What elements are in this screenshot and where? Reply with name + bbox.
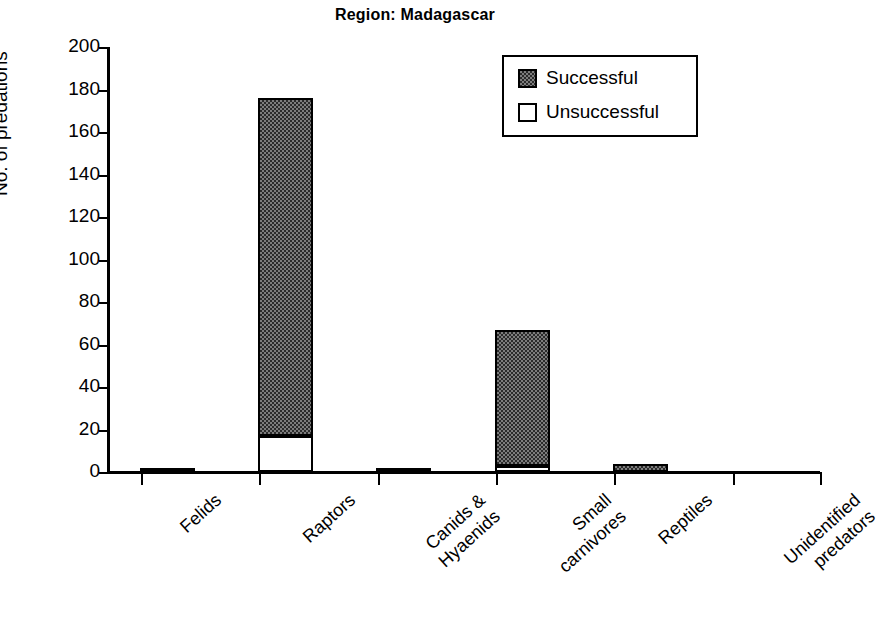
bar-segment-successful[interactable] — [376, 468, 431, 472]
y-tick-label: 140 — [40, 164, 100, 184]
bar-felids[interactable] — [140, 468, 195, 472]
y-tick-label: 160 — [40, 121, 100, 141]
x-tick-mark — [141, 472, 143, 485]
y-tick-mark — [99, 345, 108, 347]
y-tick-label: 0 — [40, 461, 100, 481]
chart-legend: Successful Unsuccessful — [502, 55, 698, 137]
legend-label-unsuccessful: Unsuccessful — [546, 102, 659, 122]
x-tick-label: Raptors — [298, 489, 360, 548]
bar-segment-successful[interactable] — [140, 468, 195, 472]
legend-swatch-successful-icon — [518, 69, 537, 88]
plot-area: 020406080100120140160180200 — [108, 47, 818, 472]
y-tick-mark — [99, 302, 108, 304]
x-tick-label: Reptiles — [653, 489, 716, 549]
x-tick-label-line: Raptors — [298, 489, 360, 548]
bar-raptors[interactable] — [258, 98, 313, 472]
x-tick-mark — [733, 472, 735, 485]
legend-swatch-unsuccessful-icon — [518, 103, 537, 122]
x-tick-mark — [259, 472, 261, 485]
bar-segment-successful[interactable] — [613, 464, 668, 473]
x-tick-label: Canids &Hyaenids — [419, 489, 504, 572]
y-tick-label: 40 — [40, 376, 100, 396]
chart-title: Region: Madagascar — [0, 6, 830, 24]
y-tick-label: 180 — [40, 79, 100, 99]
bar-segment-unsuccessful[interactable] — [258, 436, 313, 472]
legend-item-unsuccessful[interactable]: Unsuccessful — [518, 100, 659, 124]
x-tick-mark — [614, 472, 616, 485]
bar-reptiles[interactable] — [613, 464, 668, 473]
y-axis-title: No. of predations — [0, 0, 12, 196]
x-tick-mark — [820, 472, 822, 485]
x-tick-label-line: Reptiles — [653, 489, 716, 549]
y-tick-mark — [99, 132, 108, 134]
y-tick-mark — [99, 217, 108, 219]
y-tick-label: 200 — [40, 36, 100, 56]
y-tick-mark — [99, 430, 108, 432]
y-tick-label: 100 — [40, 249, 100, 269]
y-tick-mark — [99, 47, 108, 49]
x-tick-mark — [378, 472, 380, 485]
x-tick-label-line: Felids — [175, 489, 225, 537]
x-tick-label: Smallcarnivores — [539, 489, 630, 577]
x-tick-mark — [496, 472, 498, 485]
legend-label-successful: Successful — [546, 68, 638, 88]
x-tick-label: Unidentifiedpredators — [779, 489, 879, 585]
bar-segment-successful[interactable] — [258, 98, 313, 436]
legend-item-successful[interactable]: Successful — [518, 66, 638, 90]
bar-canids-hyaenids[interactable] — [376, 468, 431, 472]
bar-segment-unsuccessful[interactable] — [495, 466, 550, 472]
y-tick-mark — [99, 260, 108, 262]
y-tick-mark — [99, 175, 108, 177]
bar-segment-successful[interactable] — [495, 330, 550, 466]
y-tick-label: 60 — [40, 334, 100, 354]
x-tick-label: Felids — [175, 489, 225, 537]
y-tick-label: 120 — [40, 206, 100, 226]
y-tick-mark — [99, 90, 108, 92]
y-tick-mark — [99, 472, 108, 474]
bar-small-carnivores[interactable] — [495, 330, 550, 472]
y-tick-label: 20 — [40, 419, 100, 439]
y-tick-label: 80 — [40, 291, 100, 311]
y-tick-mark — [99, 387, 108, 389]
